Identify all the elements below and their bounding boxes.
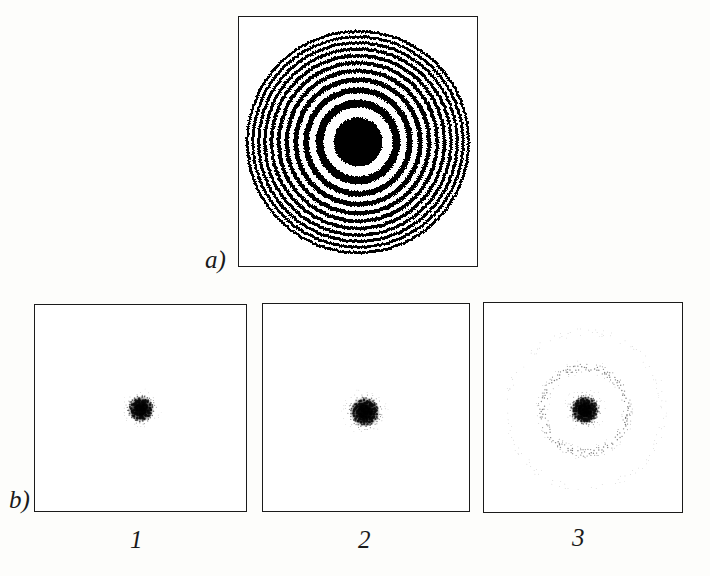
panel-b-number-1: 1 xyxy=(130,527,143,552)
panel-b-number-3: 3 xyxy=(572,525,585,550)
figure-root: a) b) 1 2 3 xyxy=(0,0,710,576)
focal-spot-image-3 xyxy=(484,303,681,511)
panel-b-item-3 xyxy=(483,302,683,513)
focal-spot-image-2 xyxy=(263,304,468,510)
panel-label-b: b) xyxy=(9,487,30,512)
focal-spot-image-1 xyxy=(35,305,245,510)
fresnel-zone-plate-image xyxy=(239,17,476,265)
panel-b-item-2 xyxy=(262,303,470,512)
panel-b-item-1-inner xyxy=(35,305,246,511)
panel-b-item-2-inner xyxy=(263,304,469,511)
panel-a-zone-plate xyxy=(238,16,478,267)
panel-b-number-2: 2 xyxy=(358,527,371,552)
panel-a-inner xyxy=(239,17,477,266)
panel-label-a: a) xyxy=(205,247,226,272)
panel-b-item-1 xyxy=(34,304,247,512)
panel-b-item-3-inner xyxy=(484,303,682,512)
